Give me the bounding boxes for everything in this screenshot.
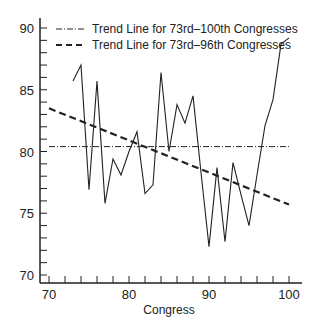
series-layer xyxy=(49,37,290,247)
y-tick-label: 80 xyxy=(20,145,34,160)
data-point xyxy=(104,203,105,204)
data-point xyxy=(256,174,257,175)
data-point xyxy=(136,131,137,132)
data-point xyxy=(248,225,249,226)
x-axis-title: Congress xyxy=(143,303,194,317)
data-point xyxy=(200,172,201,173)
legend-label-1: Trend Line for 73rd–96th Congresses xyxy=(92,38,291,52)
y-tick-label: 90 xyxy=(20,21,34,36)
y-tick-label: 75 xyxy=(20,206,34,221)
data-point xyxy=(152,184,153,185)
x-tick-label: 80 xyxy=(122,287,136,302)
data-point xyxy=(120,174,121,175)
data-point xyxy=(192,95,193,96)
data-point xyxy=(216,167,217,168)
data-point xyxy=(184,122,185,123)
data-point xyxy=(176,104,177,105)
x-tick-label: 100 xyxy=(278,287,300,302)
data-point xyxy=(112,158,113,159)
data-point xyxy=(128,151,129,152)
data-point xyxy=(72,81,73,82)
data-point xyxy=(272,99,273,100)
data-point xyxy=(160,72,161,73)
data-point xyxy=(144,193,145,194)
data-point xyxy=(224,241,225,242)
data-point xyxy=(80,64,81,65)
data-point xyxy=(208,246,209,247)
data-point xyxy=(264,125,265,126)
y-tick-label: 70 xyxy=(20,268,34,283)
x-tick-label: 70 xyxy=(42,287,56,302)
data-point xyxy=(96,81,97,82)
data-point xyxy=(232,162,233,163)
trend-line-73-96 xyxy=(49,108,289,204)
legend-label-0: Trend Line for 73rd–100th Congresses xyxy=(92,22,298,36)
chart: 7075808590708090100 Trend Line for 73rd–… xyxy=(0,0,314,332)
data-point xyxy=(88,189,89,190)
y-tick-label: 85 xyxy=(20,83,34,98)
data-point xyxy=(240,194,241,195)
legend: Trend Line for 73rd–100th Congresses Tre… xyxy=(56,22,298,52)
data-series-line xyxy=(73,38,289,247)
x-tick-label: 90 xyxy=(202,287,216,302)
data-point xyxy=(168,151,169,152)
